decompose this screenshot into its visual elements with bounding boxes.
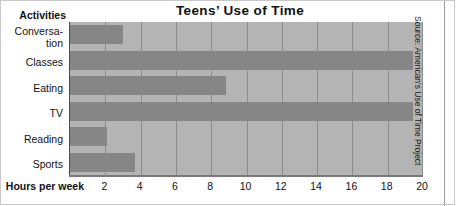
category-label-tv: TV (0, 108, 63, 120)
x-tick-label: 18 (375, 180, 399, 192)
x-tick-label: 2 (92, 180, 116, 192)
x-axis-line (69, 175, 423, 177)
x-tick-label: 6 (163, 180, 187, 192)
x-tick-label: 4 (128, 180, 152, 192)
gridline (211, 22, 212, 175)
x-tick-label: 14 (304, 180, 328, 192)
right-divider (444, 0, 445, 206)
category-label-line: Conversa- (15, 25, 63, 37)
x-tick-label: 10 (234, 180, 258, 192)
category-label-conversation: Conversa- tion (0, 26, 63, 49)
category-axis: Conversa- tion Classes Eating TV Reading… (0, 22, 66, 175)
gridline (141, 22, 142, 175)
chart-figure: Teens’ Use of Time Activities (0, 0, 456, 206)
bar-reading[interactable] (70, 127, 107, 146)
category-label-line: tion (46, 37, 63, 49)
bar-sports[interactable] (70, 153, 135, 172)
bar-eating[interactable] (70, 76, 226, 95)
chart-title: Teens’ Use of Time (140, 3, 340, 18)
gridline (247, 22, 248, 175)
x-axis-title: Hours per week (0, 180, 84, 192)
gridline (317, 22, 318, 175)
plot-area (69, 22, 423, 175)
gridline (352, 22, 353, 175)
source-note: Source: American's Use of Time Project (411, 16, 424, 176)
x-tick-label: 8 (198, 180, 222, 192)
category-label-reading: Reading (0, 134, 63, 146)
gridline (282, 22, 283, 175)
gridline (176, 22, 177, 175)
x-tick-label: 20 (410, 180, 434, 192)
bar-tv[interactable] (70, 102, 413, 121)
bar-conversation[interactable] (70, 25, 123, 44)
y-axis-title: Activities (0, 9, 66, 21)
x-tick-label: 16 (339, 180, 363, 192)
category-label-eating: Eating (0, 83, 63, 95)
gridline (388, 22, 389, 175)
bar-classes[interactable] (70, 51, 413, 70)
category-label-sports: Sports (0, 159, 63, 171)
x-tick-label: 12 (269, 180, 293, 192)
category-label-classes: Classes (0, 57, 63, 69)
